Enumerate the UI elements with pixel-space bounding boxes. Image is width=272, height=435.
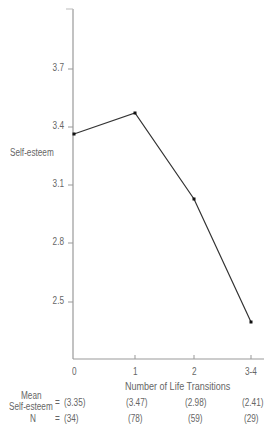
- y-tick-label: 2.8: [31, 236, 64, 247]
- x-tick-label: 1: [133, 366, 138, 377]
- mean-value: (2.41): [242, 397, 263, 408]
- y-axis-label: Self-esteem: [10, 147, 54, 158]
- x-tick-label: 0: [72, 366, 77, 377]
- n-value: (29): [244, 413, 259, 424]
- n-value: (59): [188, 413, 203, 424]
- self-esteem-label: Self-esteem: [9, 401, 53, 412]
- equals-sign: =: [55, 397, 60, 408]
- y-tick-label: 3.1: [31, 178, 64, 189]
- mean-value: (3.47): [126, 397, 147, 408]
- x-tick-label: 2: [192, 366, 197, 377]
- y-ticks: [68, 69, 73, 302]
- x-axis-label: Number of Life Transitions: [125, 380, 230, 392]
- mean-self-esteem-line: [74, 113, 251, 322]
- mean-label: Mean: [21, 390, 42, 401]
- n-label: N: [30, 413, 36, 424]
- equals-sign: =: [55, 413, 60, 424]
- data-points: [73, 112, 253, 324]
- y-tick-label: 3.7: [31, 62, 64, 73]
- x-tick-label: 3-4: [245, 366, 257, 377]
- mean-value: (2.98): [185, 397, 206, 408]
- y-tick-label: 3.4: [31, 120, 64, 131]
- mean-value: (3.35): [64, 397, 85, 408]
- y-tick-label: 2.5: [31, 295, 64, 306]
- n-value: (78): [128, 413, 143, 424]
- n-value: (34): [64, 413, 79, 424]
